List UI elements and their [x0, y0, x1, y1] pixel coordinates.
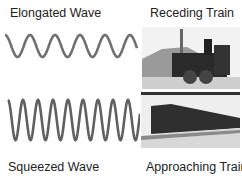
elongated-wave-label: Elongated Wave [10, 6, 101, 20]
receding-train-photo [142, 27, 240, 89]
squeezed-wave-label: Squeezed Wave [8, 160, 99, 174]
approaching-train-photo [141, 92, 240, 148]
elongated-wave [0, 28, 140, 64]
receding-train-label: Receding Train [150, 6, 234, 20]
squeezed-wave [0, 96, 140, 144]
approaching-train-label: Approaching Train [146, 160, 242, 174]
